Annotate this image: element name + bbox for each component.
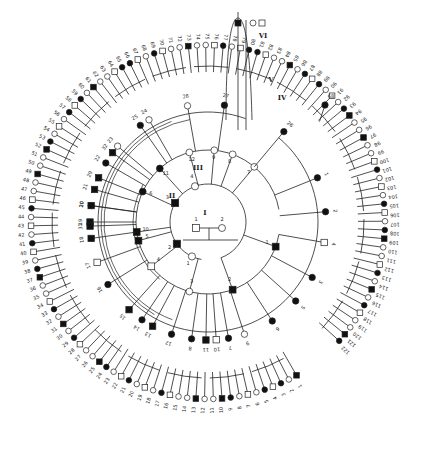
gen5-label: 31 bbox=[50, 325, 59, 334]
gen5-symbol bbox=[126, 378, 132, 384]
gen5-symbol bbox=[294, 372, 300, 378]
gen5-symbol bbox=[83, 348, 89, 354]
gen4-descent bbox=[91, 232, 137, 238]
gen4-descent bbox=[280, 212, 326, 216]
gen3-symbol bbox=[135, 237, 142, 244]
gen5-symbol bbox=[32, 258, 38, 264]
gen5-symbol bbox=[203, 42, 209, 48]
gen5-stem bbox=[356, 195, 383, 199]
gen5-symbol bbox=[112, 69, 118, 75]
gen5-symbol bbox=[382, 227, 388, 233]
gen6-symbol bbox=[250, 20, 256, 26]
gen3-symbol bbox=[186, 288, 193, 295]
gen5-label: 8 bbox=[236, 406, 242, 410]
gen5-symbol bbox=[193, 396, 199, 402]
gen4-symbol bbox=[137, 122, 143, 128]
gen3-label: 1 bbox=[266, 239, 269, 245]
gen5-stem bbox=[220, 372, 222, 399]
gen5-label: 32 bbox=[45, 318, 54, 326]
gen4-label: 6 bbox=[275, 326, 281, 333]
gen5-symbol bbox=[33, 180, 39, 186]
gen5-stem bbox=[188, 46, 191, 73]
gen5-symbol bbox=[84, 90, 90, 96]
gen4-symbol bbox=[281, 128, 287, 134]
gen5-stem bbox=[354, 258, 380, 264]
gen5-symbol bbox=[365, 295, 371, 301]
gen5-label: 94 bbox=[354, 108, 363, 117]
gen5-symbol bbox=[105, 74, 111, 80]
gen5-label: 115 bbox=[375, 292, 386, 301]
gen5-label: 5 bbox=[263, 399, 270, 404]
gen3-symbol bbox=[139, 188, 146, 195]
gen5-symbol bbox=[270, 384, 276, 390]
pedigree-diagram: 1212341234567891011121234567891011121314… bbox=[0, 0, 441, 451]
gen4-label: 2 bbox=[332, 209, 338, 213]
gen5-label: 62 bbox=[91, 70, 100, 79]
gen5-label: 99 bbox=[377, 149, 385, 157]
gen3-label: 9 bbox=[212, 154, 215, 160]
gen5-stem bbox=[46, 283, 71, 294]
gen5-symbol bbox=[127, 60, 133, 66]
gen4-symbol bbox=[95, 175, 101, 181]
gen2-label: 4 bbox=[190, 173, 193, 179]
gen5-label: 112 bbox=[384, 266, 395, 274]
gen2-label: 2 bbox=[168, 244, 171, 250]
gen5-symbol bbox=[220, 43, 226, 49]
generation-label: III bbox=[193, 163, 203, 172]
gen5-label: 49 bbox=[25, 167, 33, 175]
gen5-label: 54 bbox=[43, 124, 52, 132]
gen5-stem bbox=[235, 370, 240, 397]
gen5-symbol bbox=[44, 147, 50, 153]
gen5-label: 46 bbox=[19, 195, 26, 202]
gen5-label: 2 bbox=[288, 388, 295, 394]
gen5-label: 84 bbox=[284, 50, 292, 58]
gen5-label: 24 bbox=[95, 371, 104, 380]
gen5-label: 119 bbox=[357, 324, 368, 334]
gen5-stem bbox=[249, 366, 256, 392]
gen5-label: 95 bbox=[360, 116, 369, 125]
gen3-label: 7 bbox=[247, 169, 250, 175]
gen3-descent bbox=[138, 232, 171, 241]
sibship-arc bbox=[168, 373, 202, 378]
gen5-stem bbox=[356, 243, 383, 247]
gen5-symbol bbox=[91, 84, 97, 90]
gen4-symbol bbox=[292, 298, 298, 304]
gen5-label: 101 bbox=[382, 166, 393, 175]
gen5-stem bbox=[347, 279, 372, 289]
gen4-label: 4 bbox=[331, 242, 337, 246]
gen5-stem bbox=[32, 240, 59, 243]
gen5-symbol bbox=[30, 197, 36, 203]
gen5-symbol bbox=[111, 369, 117, 375]
generation-label: VI bbox=[258, 31, 268, 40]
gen5-symbol bbox=[279, 58, 285, 64]
gen4-descent bbox=[97, 247, 140, 263]
gen5-label: 53 bbox=[38, 133, 46, 141]
gen5-stem bbox=[242, 368, 248, 394]
gen4-descent bbox=[118, 146, 153, 176]
gen5-label: 75 bbox=[205, 33, 211, 39]
gen5-stem bbox=[100, 82, 116, 103]
gen5-label: 1 bbox=[296, 384, 303, 390]
gen5-stem bbox=[328, 115, 350, 131]
gen5-stem bbox=[107, 76, 122, 98]
gen5-symbol bbox=[381, 236, 387, 242]
gen5-stem bbox=[351, 170, 377, 178]
gen5-symbol bbox=[51, 306, 57, 312]
gen4-symbol bbox=[109, 149, 115, 155]
gen4-symbol bbox=[188, 336, 194, 342]
gen5-symbol bbox=[381, 201, 387, 207]
gen5-label: 105 bbox=[389, 203, 399, 210]
gen3-descent bbox=[151, 245, 178, 266]
gen4-descent bbox=[262, 270, 296, 301]
gen5-label: 48 bbox=[22, 176, 30, 183]
gen5-symbol bbox=[263, 52, 269, 58]
gen5-stem bbox=[34, 191, 61, 196]
gen5-label: 15 bbox=[171, 404, 178, 411]
gen4-label: 3 bbox=[318, 279, 325, 285]
gen5-symbol bbox=[29, 240, 35, 246]
gen4-descent bbox=[172, 290, 186, 334]
gen5-label: 89 bbox=[323, 75, 332, 84]
outlier-symbol bbox=[322, 102, 328, 108]
gen5-label: 76 bbox=[214, 33, 220, 40]
gen5-label: 30 bbox=[55, 333, 64, 342]
